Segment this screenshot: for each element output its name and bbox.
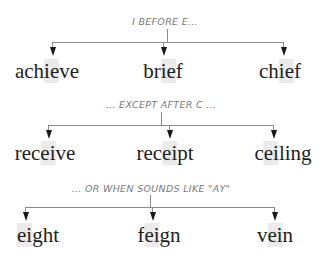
example-word: achieve xyxy=(15,60,79,82)
vowel-highlight: ei xyxy=(17,223,32,247)
example-word: brief xyxy=(143,60,183,82)
connector-bar xyxy=(48,125,274,126)
arrow-down-icon xyxy=(167,130,173,139)
vowel-highlight: ei xyxy=(144,223,159,247)
connector-stem xyxy=(150,195,151,207)
example-word: eight xyxy=(17,224,59,246)
connector-stem xyxy=(167,29,168,42)
arrow-down-icon xyxy=(271,130,277,139)
arrow-down-icon xyxy=(46,130,52,139)
example-word: receipt xyxy=(136,142,193,164)
vowel-highlight: ie xyxy=(279,59,294,83)
connector-stem xyxy=(161,112,162,125)
vowel-highlight: ei xyxy=(264,141,279,165)
example-word: ceiling xyxy=(254,142,311,164)
arrow-down-icon xyxy=(23,212,29,221)
arrow-down-icon xyxy=(272,212,278,221)
example-word: vein xyxy=(257,224,293,246)
rule-label: ... EXCEPT AFTER C ... xyxy=(106,99,216,110)
arrow-down-icon xyxy=(281,47,287,56)
arrow-down-icon xyxy=(150,212,156,221)
example-word: receive xyxy=(15,142,76,164)
example-word: chief xyxy=(259,60,301,82)
rule-label: ... OR WHEN SOUNDS LIKE "AY" xyxy=(72,183,231,194)
connector-bar xyxy=(25,207,275,208)
arrow-down-icon xyxy=(161,47,167,56)
rule-label: I BEFORE E... xyxy=(132,16,198,27)
vowel-highlight: ei xyxy=(267,223,282,247)
vowel-highlight: ie xyxy=(161,59,176,83)
example-word: feign xyxy=(137,224,180,246)
arrow-down-icon xyxy=(50,47,56,56)
vowel-highlight: ei xyxy=(162,141,177,165)
vowel-highlight: ei xyxy=(40,141,55,165)
connector-bar xyxy=(52,42,284,43)
vowel-highlight: ie xyxy=(44,59,59,83)
